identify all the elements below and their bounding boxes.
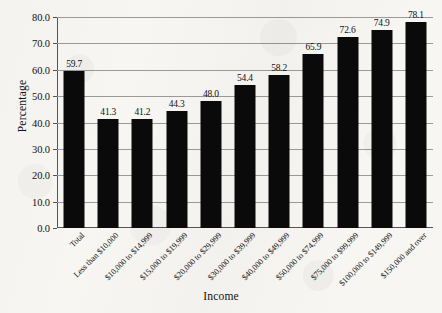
bar-item[interactable]: 59.7: [57, 17, 91, 228]
bar-rect[interactable]: [64, 71, 85, 228]
y-axis-tick-label: 10.0: [32, 196, 50, 207]
y-axis-tick-label: 80.0: [32, 12, 50, 23]
bar-value-label: 58.2: [271, 63, 287, 73]
bar-value-label: 59.7: [66, 59, 82, 69]
bar-value-label: 72.6: [340, 25, 356, 35]
bar-value-label: 48.0: [203, 89, 219, 99]
bar-value-label: 74.9: [374, 18, 390, 28]
bar-chart-figure: Percentage 0.010.020.030.040.050.060.070…: [0, 0, 442, 313]
y-axis-tick-label: 50.0: [32, 91, 50, 102]
bar-item[interactable]: 44.3: [160, 17, 194, 228]
plot-area: 0.010.020.030.040.050.060.070.080.0 59.7…: [57, 17, 433, 228]
bar-rect[interactable]: [269, 75, 290, 229]
bar-value-label: 78.1: [408, 10, 424, 20]
x-axis-title: Income: [0, 290, 442, 302]
bar-rect[interactable]: [337, 37, 358, 228]
bar-item[interactable]: 41.2: [125, 17, 159, 228]
y-axis-tick-label: 30.0: [32, 143, 50, 154]
y-axis-tick-label: 70.0: [32, 38, 50, 49]
y-axis-tick-label: 40.0: [32, 117, 50, 128]
x-axis-tick-label: Total: [68, 231, 86, 249]
bar-value-label: 65.9: [305, 42, 321, 52]
bar-rect[interactable]: [234, 85, 255, 228]
bar-value-label: 41.3: [100, 107, 116, 117]
y-axis-tick-label: 20.0: [32, 170, 50, 181]
bar-item[interactable]: 65.9: [296, 17, 330, 228]
bar-rect[interactable]: [132, 119, 153, 228]
bar-item[interactable]: 58.2: [262, 17, 296, 228]
bar-rect[interactable]: [405, 22, 426, 228]
x-axis-tick-labels: TotalLess than $10,000$10,000 to $14,999…: [57, 231, 433, 289]
bar-item[interactable]: 54.4: [228, 17, 262, 228]
bar-value-label: 54.4: [237, 73, 253, 83]
bar-rect[interactable]: [98, 119, 119, 228]
bar-item[interactable]: 48.0: [194, 17, 228, 228]
bar-rect[interactable]: [200, 101, 221, 228]
bars-group: 59.741.341.244.348.054.458.265.972.674.9…: [57, 17, 433, 228]
y-axis-title: Percentage: [16, 58, 28, 154]
y-axis-tick-mark: [53, 228, 57, 229]
bar-rect[interactable]: [166, 111, 187, 228]
bar-item[interactable]: 74.9: [365, 17, 399, 228]
y-axis-tick-label: 60.0: [32, 64, 50, 75]
bar-value-label: 44.3: [169, 99, 185, 109]
bar-value-label: 41.2: [135, 107, 151, 117]
bar-item[interactable]: 41.3: [91, 17, 125, 228]
bar-item[interactable]: 78.1: [399, 17, 433, 228]
bar-rect[interactable]: [303, 54, 324, 228]
y-axis-tick-label: 0.0: [37, 223, 50, 234]
bar-rect[interactable]: [371, 30, 392, 228]
bar-item[interactable]: 72.6: [330, 17, 364, 228]
